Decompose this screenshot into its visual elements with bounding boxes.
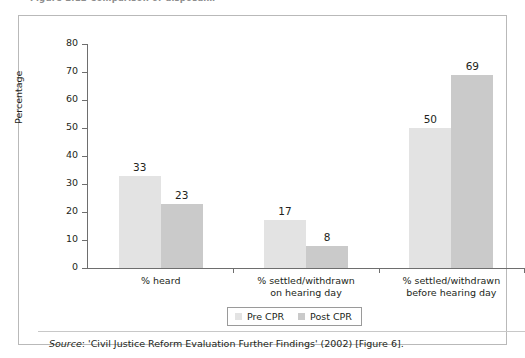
bar-post-cpr-group-2 — [306, 246, 348, 268]
y-axis-title: Percentage — [13, 71, 24, 124]
bar-pre-cpr-group-3 — [409, 128, 451, 268]
category-label-line: % heard — [88, 275, 233, 287]
source-text: : 'Civil Justice Reform Evaluation Furth… — [82, 338, 404, 349]
legend-item-pre-cpr: Pre CPR — [235, 311, 284, 322]
category-label-1: % heard — [88, 275, 233, 287]
bar-value-label: 23 — [152, 189, 212, 201]
legend-label-post-cpr: Post CPR — [310, 311, 352, 322]
category-label-2: % settled/withdrawnon hearing day — [233, 275, 378, 299]
y-tick-mark — [82, 212, 87, 213]
y-tick-label: 50 — [66, 121, 78, 132]
y-tick-mark — [82, 156, 87, 157]
y-tick-label: 80 — [66, 37, 78, 48]
y-tick-label: 20 — [66, 205, 78, 216]
category-label-line: before hearing day — [379, 287, 524, 299]
figure-caption: Figure 2.12 Comparison of disposal… — [30, 0, 470, 5]
legend-swatch-post-cpr — [298, 313, 305, 320]
legend-item-post-cpr: Post CPR — [298, 311, 352, 322]
bar-value-label: 8 — [297, 231, 357, 243]
category-label-line: % settled/withdrawn — [233, 275, 378, 287]
bar-post-cpr-group-1 — [161, 204, 203, 268]
category-label-line: on hearing day — [233, 287, 378, 299]
bar-value-label: 50 — [400, 113, 460, 125]
y-tick-mark — [82, 128, 87, 129]
category-tick — [379, 268, 380, 273]
bar-pre-cpr-group-2 — [264, 220, 306, 268]
y-tick-mark — [82, 240, 87, 241]
y-tick-label: 10 — [66, 233, 78, 244]
source-label: Source — [49, 338, 82, 349]
y-tick-label: 70 — [66, 65, 78, 76]
y-tick-mark — [82, 44, 87, 45]
y-tick-mark — [82, 268, 87, 269]
chart-legend: Pre CPR Post CPR — [227, 307, 362, 326]
y-tick-mark — [82, 72, 87, 73]
source-note: Source: 'Civil Justice Reform Evaluation… — [49, 338, 404, 349]
category-tick — [233, 268, 234, 273]
y-tick-label: 0 — [72, 261, 78, 272]
x-axis-line — [87, 268, 524, 269]
category-label-line: % settled/withdrawn — [379, 275, 524, 287]
bar-value-label: 33 — [110, 161, 170, 173]
bar-value-label: 69 — [442, 60, 502, 72]
y-tick-label: 30 — [66, 177, 78, 188]
bar-post-cpr-group-3 — [451, 75, 493, 268]
y-tick-mark — [82, 184, 87, 185]
source-divider — [38, 331, 525, 332]
bar-value-label: 17 — [255, 205, 315, 217]
y-tick-label: 40 — [66, 149, 78, 160]
category-label-3: % settled/withdrawnbefore hearing day — [379, 275, 524, 299]
y-tick-label: 60 — [66, 93, 78, 104]
y-tick-mark — [82, 100, 87, 101]
legend-label-pre-cpr: Pre CPR — [247, 311, 284, 322]
figure-frame: Percentage 01020304050607080 % heard% se… — [18, 15, 507, 345]
legend-swatch-pre-cpr — [235, 313, 242, 320]
